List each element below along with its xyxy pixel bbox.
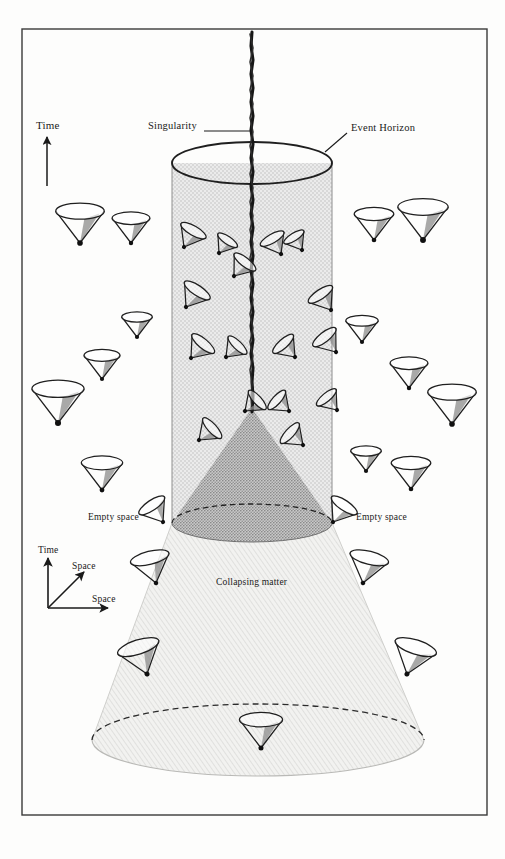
light-cone [351, 446, 382, 473]
light-cone [56, 203, 105, 246]
light-cone-mouth [346, 315, 378, 326]
light-cone-event-dot [372, 238, 377, 243]
label-time-axis: Time [36, 120, 60, 131]
light-cone-mouth [122, 312, 153, 322]
light-cone [354, 207, 394, 242]
light-cone-event-dot [160, 519, 166, 525]
label-empty-space-left: Empty space [88, 513, 139, 523]
light-cone [112, 212, 150, 245]
light-cone-mouth [32, 380, 84, 397]
light-cone [346, 315, 378, 344]
light-cone [390, 357, 428, 390]
light-cone [84, 349, 120, 381]
legend-space-diagonal-arrow [48, 572, 84, 608]
light-cone-event-dot [334, 407, 340, 413]
event-horizon-leader [325, 133, 347, 152]
light-cone-mouth [391, 456, 431, 469]
light-cone [32, 380, 84, 426]
light-cone-event-dot [333, 349, 339, 355]
light-cone-mouth [239, 712, 282, 726]
light-cone [81, 456, 122, 492]
light-cone-event-dot [129, 241, 133, 245]
light-cone-event-dot [360, 340, 364, 344]
light-cone-event-dot [258, 745, 263, 750]
light-cone [398, 199, 448, 243]
light-cone-event-dot [135, 335, 139, 339]
light-cone-mouth [351, 446, 382, 456]
light-cone-event-dot [100, 377, 104, 381]
light-cone-event-dot [407, 386, 411, 390]
label-legend-time: Time [38, 546, 59, 556]
light-cone-mouth [390, 357, 428, 370]
light-cone-mouth [428, 384, 477, 400]
light-cone [122, 312, 153, 339]
label-singularity: Singularity [148, 121, 197, 132]
light-cone-mouth [81, 456, 122, 470]
light-cone-event-dot [55, 420, 61, 426]
light-cone-mouth [56, 203, 105, 219]
label-collapsing-matter: Collapsing matter [216, 578, 287, 588]
light-cone-mouth [84, 349, 120, 361]
light-cone-event-dot [364, 469, 368, 473]
light-cone-event-dot [409, 487, 414, 492]
black-hole-diagram [0, 0, 505, 859]
label-legend-space-horizontal: Space [92, 595, 116, 605]
light-cone-mouth [354, 207, 394, 220]
light-cone-mouth [398, 199, 448, 216]
light-cone-event-dot [77, 240, 83, 246]
figure-page: Singularity Event Horizon Time Empty spa… [0, 0, 505, 859]
light-cone-event-dot [100, 488, 105, 493]
light-cone-event-dot [449, 421, 455, 427]
light-cone [428, 384, 477, 427]
label-event-horizon: Event Horizon [351, 123, 415, 134]
light-cone-mouth [112, 212, 150, 225]
light-cone-mouth [393, 634, 439, 661]
light-cone-event-dot [420, 237, 426, 243]
light-cone-mouth [348, 547, 390, 569]
label-legend-space-diagonal: Space [72, 562, 96, 572]
light-cone [391, 456, 431, 491]
label-empty-space-right: Empty space [356, 513, 407, 523]
